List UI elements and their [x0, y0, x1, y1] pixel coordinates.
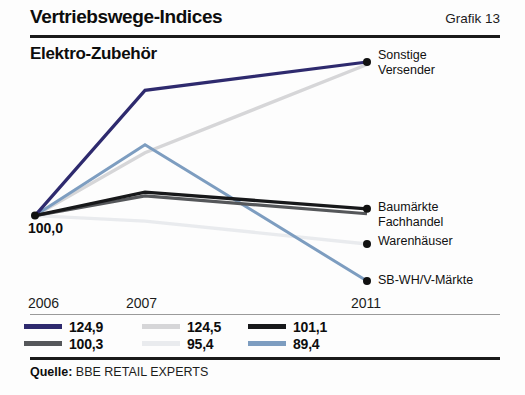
series-label-sb-wh-v-maerkte: SB-WH/V-Märkte [378, 273, 473, 288]
series-line [35, 62, 367, 216]
legend-item: 95,4 [142, 336, 248, 352]
chart-subtitle: Elektro-Zubehör [30, 44, 157, 64]
series-line [35, 145, 367, 281]
series-endpoint-dot [363, 277, 371, 285]
series-lines-group [35, 62, 367, 281]
page-title: Vertriebswege-Indices [30, 6, 222, 28]
x-axis-tick-2006: 2006 [28, 295, 59, 311]
series-label-line-1: Sonstige [378, 48, 435, 63]
legend-swatch [24, 324, 62, 329]
figure-number: Grafik 13 [445, 11, 500, 26]
series-line [35, 216, 367, 244]
x-axis-tick-2007: 2007 [126, 295, 157, 311]
axis-divider [30, 314, 500, 315]
source-note: Quelle: BBE RETAIL EXPERTS [30, 365, 208, 379]
series-label-line-2: Versender [378, 63, 435, 78]
origin-dot [31, 212, 39, 220]
series-label-fachhandel: Fachhandel [378, 215, 443, 230]
legend-value: 124,9 [69, 319, 103, 335]
series-line [35, 192, 367, 215]
legend-swatch [248, 324, 286, 329]
series-label-warenhaeuser: Warenhäuser [378, 234, 453, 249]
series-label-sonstige-versender: Sonstige Versender [378, 48, 435, 77]
series-endpoint-dots-group [31, 58, 371, 285]
chart-legend: 124,9124,5101,1100,395,489,4 [24, 318, 424, 352]
legend-item: 100,3 [24, 336, 142, 352]
series-line [35, 196, 367, 216]
x-axis-tick-2011: 2011 [351, 295, 381, 311]
legend-swatch [248, 341, 286, 346]
header-divider [30, 35, 500, 38]
legend-item: 89,4 [248, 336, 368, 352]
baseline-value-label: 100,0 [28, 220, 63, 236]
legend-item: 124,9 [24, 319, 142, 335]
legend-swatch [142, 341, 180, 346]
legend-value: 95,4 [187, 336, 213, 352]
chart-header: Vertriebswege-Indices Grafik 13 [30, 6, 500, 32]
series-endpoint-dot [363, 205, 371, 213]
chart-figure: Vertriebswege-Indices Grafik 13 Elektro-… [0, 0, 525, 395]
legend-item: 101,1 [248, 319, 368, 335]
legend-value: 124,5 [187, 319, 221, 335]
legend-item: 124,5 [142, 319, 248, 335]
series-endpoint-dot [363, 58, 371, 66]
legend-value: 100,3 [69, 336, 103, 352]
series-label-baumaerkte-fachhandel: Baumärkte Fachhandel [378, 200, 443, 229]
legend-swatch [142, 324, 180, 329]
series-endpoint-dot [363, 240, 371, 248]
series-label-baumaerkte: Baumärkte [378, 200, 443, 215]
source-value: BBE RETAIL EXPERTS [76, 365, 208, 379]
legend-value: 101,1 [293, 319, 327, 335]
legend-swatch [24, 341, 62, 346]
series-line [35, 64, 367, 215]
source-label: Quelle: [30, 365, 72, 379]
footer-divider [30, 357, 500, 360]
legend-value: 89,4 [293, 336, 319, 352]
